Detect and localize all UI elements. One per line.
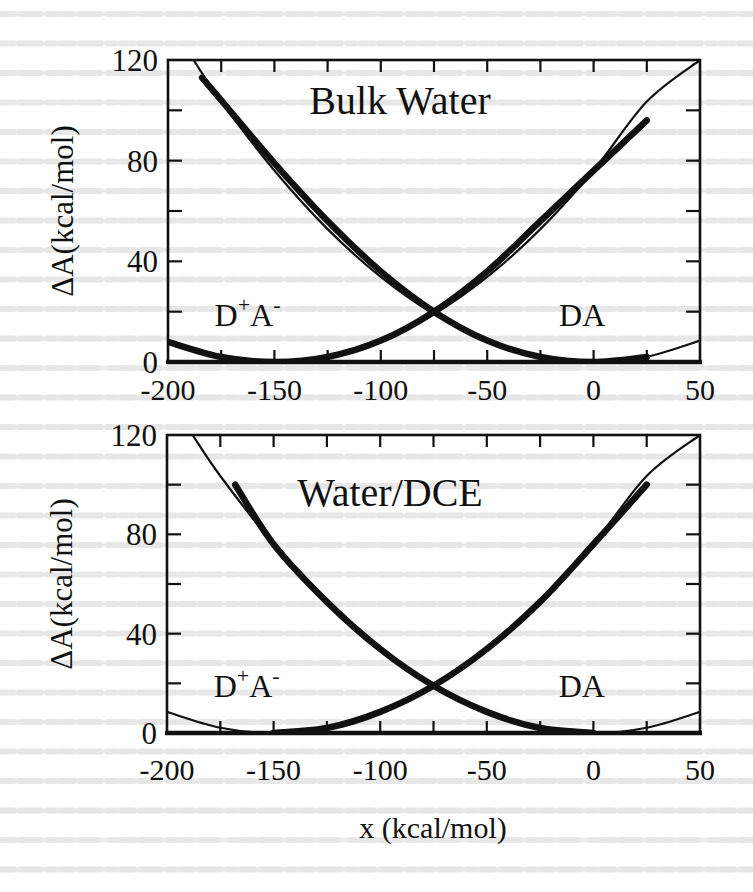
- x-tick-label: -150: [247, 373, 302, 406]
- y-tick-label: 40: [126, 617, 157, 652]
- x-tick-label: 50: [685, 373, 715, 406]
- y-tick-label: 40: [127, 244, 158, 279]
- x-tick-label: 0: [586, 753, 601, 786]
- y-axis-label: ΔA(kcal/mol): [44, 498, 79, 669]
- x-tick-label: 50: [685, 753, 715, 786]
- state-label-neutral: DA: [559, 297, 605, 333]
- y-axis-label: ΔA(kcal/mol): [45, 125, 80, 296]
- y-tick-label: 80: [127, 144, 158, 179]
- panel-title: Water/DCE: [297, 470, 483, 515]
- y-tick-label: 120: [112, 43, 159, 78]
- y-tick-label: 80: [126, 517, 157, 552]
- state-label-charge-transfer: D+A-: [215, 292, 281, 333]
- y-tick-label: 0: [142, 716, 158, 751]
- x-tick-label: -50: [467, 753, 507, 786]
- x-tick-label: -200: [140, 753, 195, 786]
- chart-panel-bulk-water: 04080120-200-150-100-50050ΔA(kcal/mol)Bu…: [45, 43, 715, 406]
- y-tick-label: 120: [111, 418, 158, 453]
- x-tick-label: -50: [467, 373, 507, 406]
- x-tick-label: 0: [586, 373, 601, 406]
- x-tick-label: -100: [353, 753, 408, 786]
- panel-title: Bulk Water: [309, 78, 491, 123]
- state-label-charge-transfer: D+A-: [214, 663, 280, 704]
- x-axis-label: x (kcal/mol): [359, 811, 506, 845]
- x-tick-label: -100: [353, 373, 408, 406]
- x-tick-label: -150: [246, 753, 301, 786]
- state-label-neutral: DA: [559, 668, 605, 704]
- figure: 04080120-200-150-100-50050ΔA(kcal/mol)Bu…: [0, 0, 753, 892]
- x-tick-label: -200: [141, 373, 196, 406]
